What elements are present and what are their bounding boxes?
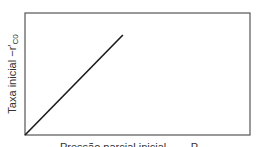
y-axis-label: Taxa inicial −r′C0 xyxy=(6,34,20,113)
y-axis-label-subscript: C0 xyxy=(11,34,20,44)
x-axis-label: Pressão parcial inicial, P xyxy=(0,141,258,147)
y-axis-label-main: Taxa inicial −r′ xyxy=(6,45,18,114)
chart-plot xyxy=(0,0,258,147)
plot-frame xyxy=(25,13,250,135)
